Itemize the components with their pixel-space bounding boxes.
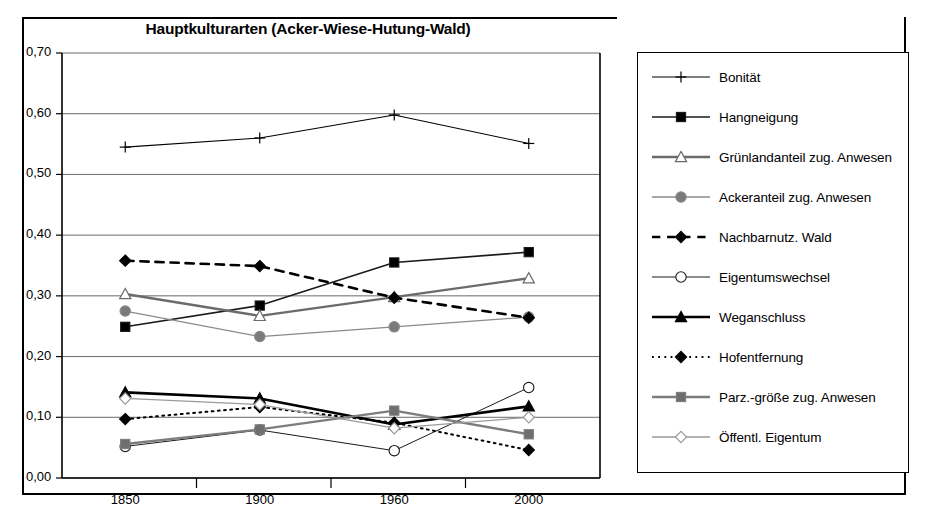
series-3 [120, 273, 535, 321]
y-tick-label: 0,20 [26, 348, 51, 363]
legend-item-label: Parz.-größe zug. Anwesen [719, 390, 876, 405]
legend-marker-diamond-icon [648, 348, 714, 366]
marker-circle [524, 382, 534, 392]
legend-item[interactable]: Ackeranteil zug. Anwesen [648, 187, 871, 207]
marker-square [121, 439, 130, 448]
marker-diamond [523, 444, 534, 455]
marker-diamond [120, 414, 131, 425]
legend-item[interactable]: Bonität [648, 67, 760, 87]
legend-item-label: Nachbarnutz. Wald [719, 230, 832, 245]
legend-item[interactable]: Parz.-größe zug. Anwesen [648, 387, 876, 407]
y-tick-label: 0,10 [26, 408, 51, 423]
series-4 [120, 306, 534, 342]
y-tick-label: 0,00 [26, 469, 51, 484]
marker-square [390, 258, 399, 267]
marker-square [676, 392, 685, 401]
marker-diamond [120, 255, 131, 266]
series-line [125, 311, 529, 337]
chart-screenshot: Hauptkulturarten (Acker-Wiese-Hutung-Wal… [0, 0, 926, 528]
series-8 [120, 401, 535, 455]
legend-marker-circle-icon [648, 188, 714, 206]
marker-circle [389, 445, 399, 455]
y-tick-label: 0,30 [26, 287, 51, 302]
legend: BonitätHangneigungGrünlandanteil zug. An… [637, 52, 909, 473]
legend-item-label: Weganschluss [719, 310, 805, 325]
marker-diamond [523, 412, 534, 423]
legend-item[interactable]: Öffentl. Eigentum [648, 427, 821, 447]
legend-item-label: Hofentfernung [719, 350, 803, 365]
marker-circle [389, 322, 399, 332]
series-lines [120, 109, 535, 455]
series-7 [120, 387, 535, 429]
series-1 [120, 109, 535, 152]
legend-marker-diamond-icon [648, 428, 714, 446]
legend-item-label: Hangneigung [719, 110, 798, 125]
marker-square [255, 425, 264, 434]
series-line [125, 261, 529, 318]
legend-item[interactable]: Eigentumswechsel [648, 267, 830, 287]
x-tick-label: 1850 [85, 492, 165, 507]
legend-item-label: Bonität [719, 70, 760, 85]
marker-square [390, 406, 399, 415]
marker-circle [676, 192, 686, 202]
x-tick-label: 2000 [489, 492, 569, 507]
series-5 [120, 255, 535, 323]
axes [62, 53, 600, 488]
legend-marker-triangle-icon [648, 308, 714, 326]
legend-marker-plus-icon [648, 68, 714, 86]
series-line [125, 115, 529, 147]
x-tick-label: 1900 [220, 492, 300, 507]
legend-marker-diamond-icon [648, 228, 714, 246]
legend-marker-triangle-icon [648, 148, 714, 166]
marker-square [121, 322, 130, 331]
legend-marker-circle-icon [648, 268, 714, 286]
y-tick-label: 0,60 [26, 105, 51, 120]
marker-circle [676, 272, 686, 282]
marker-diamond [675, 431, 686, 442]
legend-item-label: Ackeranteil zug. Anwesen [719, 190, 871, 205]
legend-item[interactable]: Hangneigung [648, 107, 798, 127]
marker-square [255, 301, 264, 310]
y-tick-label: 0,70 [26, 44, 51, 59]
marker-square [524, 430, 533, 439]
legend-item[interactable]: Hofentfernung [648, 347, 803, 367]
legend-marker-square-icon [648, 388, 714, 406]
legend-item[interactable]: Weganschluss [648, 307, 805, 327]
legend-item[interactable]: Nachbarnutz. Wald [648, 227, 832, 247]
y-tick-label: 0,50 [26, 165, 51, 180]
marker-circle [255, 331, 265, 341]
marker-square [676, 112, 685, 121]
legend-item-label: Öffentl. Eigentum [719, 430, 821, 445]
series-2 [121, 248, 534, 332]
legend-marker-square-icon [648, 108, 714, 126]
legend-item-label: Grünlandanteil zug. Anwesen [719, 150, 892, 165]
legend-item-label: Eigentumswechsel [719, 270, 830, 285]
legend-item[interactable]: Grünlandanteil zug. Anwesen [648, 147, 892, 167]
x-tick-label: 1960 [354, 492, 434, 507]
marker-circle [120, 306, 130, 316]
marker-square [524, 248, 533, 257]
gridlines [56, 53, 600, 478]
y-tick-label: 0,40 [26, 226, 51, 241]
marker-diamond [254, 261, 265, 272]
marker-diamond [675, 351, 686, 362]
marker-diamond [675, 231, 686, 242]
